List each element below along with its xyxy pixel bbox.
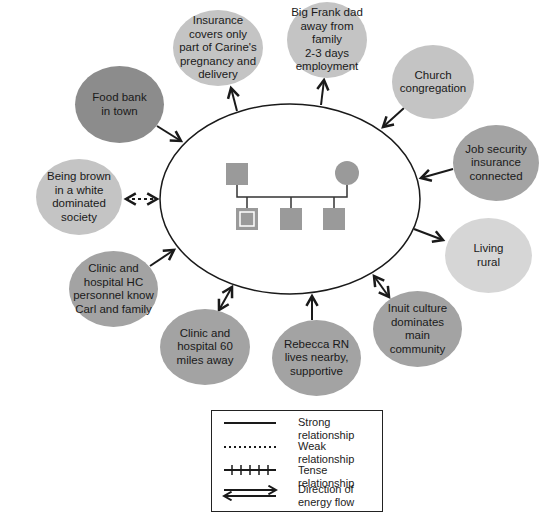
node-job-security: Job security insurance connected xyxy=(453,125,539,201)
node-inuit-culture: Inuit culture dominates main community xyxy=(373,291,462,367)
connector-inuit-culture xyxy=(374,276,389,297)
node-living-rural: Living rural xyxy=(445,218,532,293)
node-being-brown: Being brown in a white dominated society xyxy=(36,159,122,235)
connector-church xyxy=(383,108,404,127)
legend: Strong relationship Weak relationship Te… xyxy=(211,410,383,512)
legend-label-strong: Strong relationship xyxy=(298,416,382,442)
child-symbol xyxy=(280,208,302,230)
connector-job-security xyxy=(421,169,453,178)
family-ellipse xyxy=(160,104,420,294)
node-rebecca: Rebecca RN lives nearby, supportive xyxy=(272,320,361,396)
connector-food-bank xyxy=(157,126,181,141)
legend-symbols xyxy=(212,411,292,513)
ecomap-diagram: Insurance covers only part of Carine's p… xyxy=(0,0,545,517)
node-big-frank: Big Frank dad away from family 2-3 days … xyxy=(287,2,367,78)
node-clinic-hc: Clinic and hospital HC personnel know Ca… xyxy=(69,251,158,327)
child-symbol xyxy=(323,208,345,230)
node-church: Church congregation xyxy=(392,45,474,119)
legend-label-weak: Weak relationship xyxy=(298,440,382,466)
connector-insurance xyxy=(231,88,237,111)
connector-clinic-60 xyxy=(219,287,232,310)
node-food-bank: Food bank in town xyxy=(75,66,164,143)
mother-symbol xyxy=(335,161,359,185)
node-insurance: Insurance covers only part of Carine's p… xyxy=(173,10,263,86)
node-clinic-60: Clinic and hospital 60 miles away xyxy=(160,309,250,385)
father-symbol xyxy=(226,163,248,185)
tense-line-sample xyxy=(224,465,276,475)
flow-arrow-sample xyxy=(224,490,276,496)
legend-label-flow: Direction of energy flow xyxy=(298,483,354,509)
connector-living-rural xyxy=(414,229,443,240)
connector-big-frank xyxy=(321,80,324,105)
